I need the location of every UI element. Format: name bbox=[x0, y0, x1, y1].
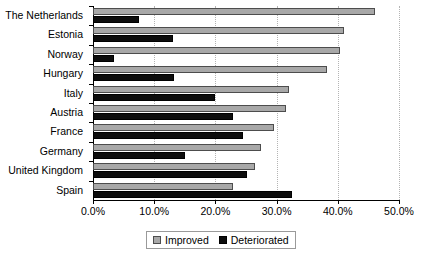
bar-deteriorated bbox=[93, 35, 173, 42]
category-label: France bbox=[50, 122, 83, 141]
bar-deteriorated bbox=[93, 74, 174, 81]
chart-legend: ImprovedDeteriorated bbox=[146, 231, 296, 249]
bar-chart: The NetherlandsEstoniaNorwayHungaryItaly… bbox=[0, 0, 425, 258]
x-tick-label: 40.0% bbox=[323, 205, 353, 217]
bar-improved bbox=[93, 183, 233, 190]
category-axis: The NetherlandsEstoniaNorwayHungaryItaly… bbox=[0, 6, 89, 200]
plot-area bbox=[93, 6, 399, 200]
x-tick-label: 20.0% bbox=[201, 205, 231, 217]
category-tick bbox=[89, 6, 93, 7]
bar-deteriorated bbox=[93, 16, 139, 23]
bar-group bbox=[93, 142, 399, 161]
category-label: Germany bbox=[40, 142, 83, 161]
bar-group bbox=[93, 64, 399, 83]
category-tick bbox=[89, 25, 93, 26]
legend-item-improved: Improved bbox=[153, 234, 209, 246]
x-tick bbox=[277, 200, 278, 204]
category-label: The Netherlands bbox=[5, 6, 83, 25]
bar-deteriorated bbox=[93, 113, 233, 120]
x-axis-line bbox=[93, 200, 399, 201]
bar-group bbox=[93, 161, 399, 180]
bar-group bbox=[93, 122, 399, 141]
bar-improved bbox=[93, 66, 327, 73]
bar-improved bbox=[93, 124, 274, 131]
legend-item-deteriorated: Deteriorated bbox=[219, 234, 289, 246]
x-tick bbox=[399, 200, 400, 204]
category-tick bbox=[89, 84, 93, 85]
x-tick-label: 0.0% bbox=[81, 205, 105, 217]
bar-deteriorated bbox=[93, 152, 185, 159]
bar-group bbox=[93, 45, 399, 64]
legend-swatch-icon bbox=[219, 236, 227, 244]
bar-improved bbox=[93, 8, 375, 15]
bar-improved bbox=[93, 144, 261, 151]
category-tick bbox=[89, 122, 93, 123]
legend-swatch-icon bbox=[153, 236, 161, 244]
x-tick-label: 30.0% bbox=[262, 205, 292, 217]
bar-improved bbox=[93, 86, 289, 93]
category-tick bbox=[89, 181, 93, 182]
x-tick-label: 50.0% bbox=[384, 205, 414, 217]
category-label: Austria bbox=[50, 103, 83, 122]
bar-group bbox=[93, 181, 399, 200]
category-label: Spain bbox=[56, 181, 83, 200]
category-label: Norway bbox=[47, 45, 83, 64]
x-tick bbox=[338, 200, 339, 204]
legend-label: Improved bbox=[165, 234, 209, 246]
x-tick bbox=[93, 200, 94, 204]
category-tick bbox=[89, 161, 93, 162]
category-tick bbox=[89, 103, 93, 104]
x-tick bbox=[215, 200, 216, 204]
bar-improved bbox=[93, 105, 286, 112]
bar-group bbox=[93, 103, 399, 122]
category-label: United Kingdom bbox=[8, 161, 83, 180]
bar-deteriorated bbox=[93, 132, 243, 139]
bar-improved bbox=[93, 163, 255, 170]
bar-group bbox=[93, 6, 399, 25]
bar-deteriorated bbox=[93, 94, 215, 101]
category-label: Italy bbox=[64, 84, 83, 103]
bar-deteriorated bbox=[93, 171, 247, 178]
bar-deteriorated bbox=[93, 191, 292, 198]
category-label: Hungary bbox=[43, 64, 83, 83]
bar-deteriorated bbox=[93, 55, 114, 62]
x-tick bbox=[154, 200, 155, 204]
category-tick bbox=[89, 45, 93, 46]
bar-group bbox=[93, 84, 399, 103]
x-tick-label: 10.0% bbox=[139, 205, 169, 217]
gridline-50.0% bbox=[399, 6, 400, 200]
legend-label: Deteriorated bbox=[231, 234, 289, 246]
bar-improved bbox=[93, 27, 344, 34]
category-label: Estonia bbox=[48, 25, 83, 44]
category-tick bbox=[89, 64, 93, 65]
bar-improved bbox=[93, 47, 340, 54]
bar-group bbox=[93, 25, 399, 44]
category-tick bbox=[89, 142, 93, 143]
